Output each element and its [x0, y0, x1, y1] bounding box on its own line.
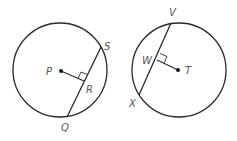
left-figure: P S R Q: [13, 23, 111, 133]
label-w: W: [142, 55, 153, 66]
label-t: T: [185, 65, 192, 76]
label-s: S: [104, 41, 111, 52]
label-q: Q: [61, 122, 69, 133]
label-p: P: [46, 66, 53, 77]
geometry-diagram: P S R Q V W T X: [0, 0, 237, 141]
center-point-t: [176, 68, 180, 72]
right-figure: V W T X: [128, 7, 226, 117]
center-point-p: [59, 69, 63, 73]
chord-sq: [67, 47, 101, 117]
label-r: R: [86, 84, 93, 95]
label-v: V: [169, 7, 177, 18]
label-x: X: [128, 98, 137, 109]
segment-tw: [157, 60, 178, 70]
